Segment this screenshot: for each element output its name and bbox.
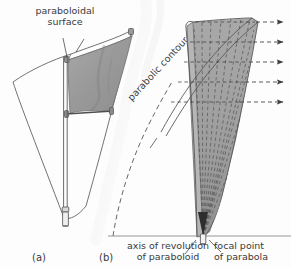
- label-axis-of-revolution: axis of revolution of paraboloid: [122, 240, 214, 263]
- dish-mast: [64, 57, 68, 222]
- paraboloid-figure: [0, 0, 291, 269]
- mast-base-collar: [62, 207, 69, 226]
- label-axis-of-revolution-line1: axis of revolution: [122, 240, 214, 251]
- panel-a-dish: [13, 29, 134, 227]
- leader-line-paraboloidal: [63, 38, 84, 57]
- label-axis-of-revolution-line2: of paraboloid: [122, 251, 214, 262]
- label-focal-point-line1: focal point: [214, 240, 290, 251]
- leader-line-contour: [150, 138, 157, 148]
- label-focal-point-line2: of parabola: [214, 251, 290, 262]
- label-focal-point: focal point of parabola: [214, 240, 290, 263]
